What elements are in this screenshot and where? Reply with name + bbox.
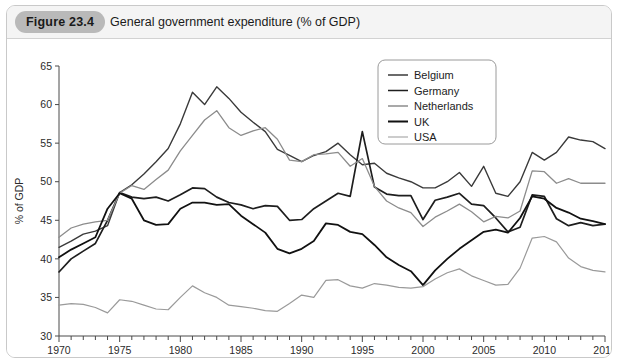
x-axis-tick-label: 2000 (411, 344, 435, 356)
legend-label-netherlands[interactable]: Netherlands (414, 100, 474, 112)
chart-legend[interactable]: BelgiumGermanyNetherlandsUKUSA (378, 60, 496, 144)
x-axis-tick-label: 2010 (533, 344, 557, 356)
figure-card: Figure 23.4 General government expenditu… (6, 5, 612, 358)
y-axis-tick-label: 40 (40, 253, 52, 265)
x-axis-tick-label: 1970 (47, 344, 71, 356)
figure-caption-bar: Figure 23.4 General government expenditu… (7, 6, 611, 39)
chart-plot-region: 3035404550556065% of GDP 197019751980198… (7, 39, 612, 358)
legend-label-usa[interactable]: USA (414, 131, 437, 143)
y-axis-tick-label: 65 (40, 60, 52, 72)
y-axis-tick-label: 35 (40, 291, 52, 303)
series-line-belgium (59, 87, 605, 247)
x-axis-tick-label: 1975 (108, 344, 132, 356)
y-axis-tick-label: 60 (40, 98, 52, 110)
line-chart: 3035404550556065% of GDP 197019751980198… (7, 39, 612, 358)
x-axis-tick-label: 1985 (229, 344, 253, 356)
y-axis-tick-label: 30 (40, 330, 52, 342)
figure-number-badge: Figure 23.4 (15, 11, 105, 33)
y-axis: 3035404550556065% of GDP (13, 60, 59, 342)
y-axis-title: % of GDP (13, 178, 25, 225)
legend-label-uk[interactable]: UK (414, 116, 430, 128)
series-line-uk (59, 193, 605, 285)
y-axis-tick-label: 50 (40, 175, 52, 187)
x-axis-tick-label: 1980 (169, 344, 193, 356)
series-line-usa (59, 236, 605, 312)
y-axis-tick-label: 55 (40, 137, 52, 149)
series-lines (59, 87, 605, 313)
figure-title: General government expenditure (% of GDP… (110, 11, 360, 33)
legend-label-belgium[interactable]: Belgium (414, 69, 454, 81)
x-axis: 1970197519801985199019952000200520102015 (47, 336, 612, 356)
x-axis-tick-label: 1995 (351, 344, 375, 356)
x-axis-tick-label: 1990 (290, 344, 314, 356)
x-axis-tick-label: 2005 (472, 344, 496, 356)
x-axis-tick-label: 2015 (593, 344, 612, 356)
y-axis-tick-label: 45 (40, 214, 52, 226)
legend-label-germany[interactable]: Germany (414, 85, 460, 97)
